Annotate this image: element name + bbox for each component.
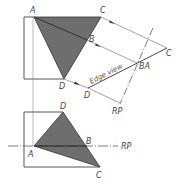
top-label-d: D — [59, 82, 65, 91]
front-label-c: C — [96, 171, 102, 180]
aux-label-d: D — [84, 91, 90, 100]
aux-label-ba: BA — [139, 62, 150, 71]
top-label-b: B — [89, 35, 95, 44]
diagram-svg: A C B D C BA D RP Edge view D A B C RP — [0, 0, 178, 186]
front-view — [8, 112, 118, 167]
aux-label-c: C — [166, 49, 172, 58]
front-label-d: D — [60, 102, 66, 111]
front-label-a: A — [27, 150, 33, 159]
edge-view-label: Edge view — [88, 62, 124, 86]
top-label-c: C — [100, 6, 106, 15]
edge-view-diagram: A C B D C BA D RP Edge view D A B C RP — [0, 0, 178, 186]
arrow-icon — [109, 21, 115, 25]
front-label-b: B — [86, 137, 92, 146]
projector-d-ext — [88, 88, 120, 103]
front-label-rp: RP — [121, 142, 132, 151]
top-label-a: A — [29, 6, 35, 15]
arrow-icon — [95, 44, 101, 48]
arrow-icon — [74, 82, 80, 86]
projector-b — [87, 40, 137, 63]
auxiliary-view — [88, 28, 167, 104]
edge-view-line — [88, 48, 167, 88]
aux-label-rp: RP — [112, 107, 123, 116]
top-view-plane-face — [34, 17, 101, 79]
